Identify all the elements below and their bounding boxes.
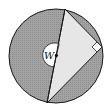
geometry-diagram: W	[0, 0, 111, 109]
center-label: W	[44, 50, 55, 61]
center-point	[55, 54, 58, 57]
